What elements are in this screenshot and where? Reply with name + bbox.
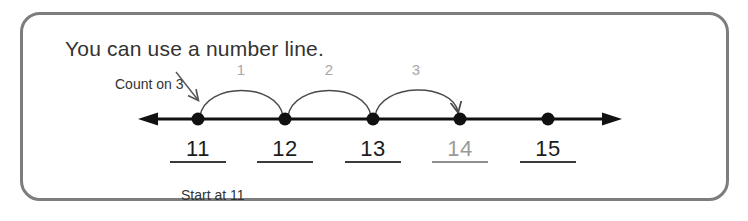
tick-number-14: 14 bbox=[447, 136, 472, 162]
hop-arc-1 bbox=[200, 91, 283, 117]
number-line-diagram bbox=[0, 0, 748, 221]
tick-number-12: 12 bbox=[272, 136, 297, 162]
tick-underline-14 bbox=[432, 161, 488, 163]
hop-arc-3 bbox=[375, 90, 458, 116]
number-line-dot bbox=[367, 113, 380, 126]
number-line-dot bbox=[279, 113, 292, 126]
right-arrowhead-icon bbox=[602, 113, 622, 126]
tick-underline-15 bbox=[520, 161, 576, 163]
left-arrowhead-icon bbox=[138, 113, 158, 126]
number-line-dot bbox=[542, 113, 555, 126]
tick-number-15: 15 bbox=[535, 136, 560, 162]
hop-label-3: 3 bbox=[412, 61, 420, 78]
number-line-dot bbox=[192, 113, 205, 126]
tick-underline-11 bbox=[170, 161, 226, 163]
hop-label-2: 2 bbox=[325, 61, 333, 78]
tick-number-13: 13 bbox=[360, 136, 385, 162]
count-on-pointer-arrow bbox=[176, 72, 198, 100]
hop-arc-2 bbox=[288, 91, 371, 117]
hop-label-1: 1 bbox=[237, 61, 245, 78]
tick-underline-12 bbox=[257, 161, 313, 163]
number-line-dot bbox=[454, 113, 467, 126]
tick-number-11: 11 bbox=[186, 136, 210, 162]
tick-underline-13 bbox=[345, 161, 401, 163]
